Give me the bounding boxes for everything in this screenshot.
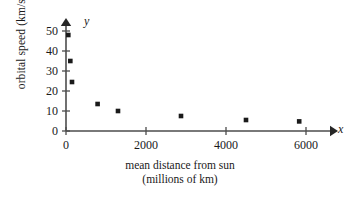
x-axis-arrowhead [330, 126, 338, 136]
data-point-marker [297, 119, 302, 124]
scatter-plot-figure: orbital speed (km/sec) mean distance fro… [0, 0, 354, 206]
data-point-marker [116, 109, 121, 114]
plot-canvas [0, 0, 354, 206]
data-point-marker [70, 80, 75, 85]
data-point-marker [66, 33, 71, 38]
data-point-marker [179, 114, 184, 119]
data-point-marker [68, 59, 73, 64]
y-axis-arrowhead [61, 18, 71, 26]
data-point-marker [244, 118, 249, 123]
data-point-marker [95, 102, 100, 107]
